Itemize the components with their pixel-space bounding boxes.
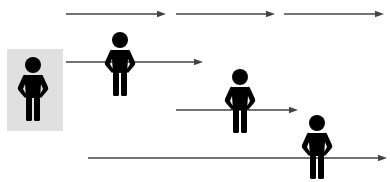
person-4-person-hands-on-hips-icon	[302, 115, 333, 179]
figures-layer	[0, 0, 390, 182]
person-1-person-hands-on-hips-icon	[18, 57, 49, 121]
diagram-canvas	[0, 0, 390, 182]
person-2-person-hands-on-hips-icon	[105, 32, 136, 96]
person-3-person-hands-on-hips-icon	[225, 69, 256, 133]
